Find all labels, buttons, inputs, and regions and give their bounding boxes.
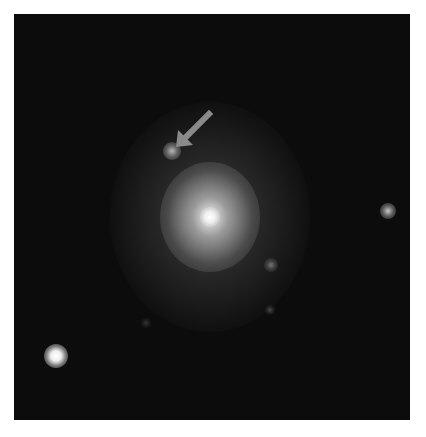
pointer-arrow-icon bbox=[14, 14, 410, 420]
astronomical-image bbox=[14, 14, 410, 420]
